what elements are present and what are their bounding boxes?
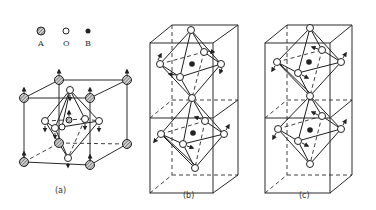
atom-o — [42, 118, 49, 125]
atom-b — [189, 61, 195, 67]
panel-b: (b) — [150, 25, 238, 200]
atom-o — [65, 155, 72, 162]
atom-o — [201, 49, 208, 56]
atom-a-corner — [55, 139, 64, 148]
atom-o — [338, 126, 345, 133]
atom-o — [307, 161, 314, 168]
atom-a-corner — [20, 158, 29, 167]
legend-item-a: A — [37, 27, 45, 48]
atom-a-corner — [123, 140, 132, 149]
open-circle-icon — [63, 28, 69, 34]
atom-b — [190, 130, 196, 136]
atom-o — [338, 59, 345, 66]
atom-a-corner — [55, 76, 64, 85]
atom-a-corner — [123, 76, 132, 85]
atom-b — [307, 127, 313, 133]
legend: A O B — [37, 27, 91, 48]
perovskite-diagram: A O B — [0, 0, 376, 210]
atom-o — [307, 25, 314, 32]
caption-c: (c) — [299, 191, 310, 200]
atom-o — [319, 47, 326, 54]
legend-label-o: O — [63, 39, 70, 48]
legend-label-b: B — [85, 39, 91, 48]
atom-o — [202, 118, 209, 125]
atom-a-corner — [86, 161, 95, 170]
filled-circle-icon — [86, 29, 91, 34]
atom-o — [274, 59, 281, 66]
atom-o — [157, 61, 164, 68]
atom-o — [192, 165, 199, 172]
atom-o — [82, 116, 89, 123]
hatched-circle-icon — [37, 27, 45, 35]
atom-o — [218, 61, 225, 68]
legend-item-b: B — [85, 29, 91, 49]
caption-a: (a) — [55, 186, 66, 195]
atom-o — [295, 70, 302, 77]
atom-a-corner — [86, 94, 95, 103]
legend-item-o: O — [63, 28, 70, 48]
atom-o — [59, 124, 65, 130]
panel-c: (c) — [265, 25, 352, 201]
atom-a-corner — [20, 94, 29, 103]
atom-b — [306, 59, 312, 65]
atom-o — [319, 113, 326, 120]
atom-o — [96, 118, 103, 125]
atom-o — [158, 131, 165, 138]
atom-o — [177, 74, 184, 81]
atom-o — [67, 87, 74, 94]
atom-o — [188, 27, 195, 34]
atom-o — [189, 95, 196, 102]
atom-o — [52, 125, 59, 132]
atom-b-center — [66, 117, 72, 123]
panel-a: (a) — [20, 70, 132, 195]
atom-o — [180, 141, 187, 148]
atom-o — [295, 138, 302, 145]
caption-b: (b) — [183, 191, 194, 200]
legend-label-a: A — [37, 39, 44, 48]
atom-o — [221, 131, 228, 138]
atom-o — [275, 126, 282, 133]
atom-o — [307, 93, 314, 100]
